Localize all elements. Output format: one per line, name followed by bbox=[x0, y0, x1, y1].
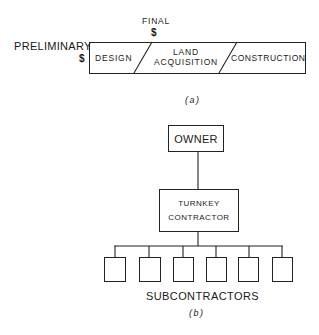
subcontractor-box-3 bbox=[173, 257, 194, 282]
turnkey-line2: CONTRACTOR bbox=[168, 213, 229, 222]
turnkey-contractor-box: TURNKEY CONTRACTOR bbox=[159, 189, 239, 232]
subcontractor-box-2 bbox=[139, 257, 161, 282]
subcontractor-box-1 bbox=[104, 257, 126, 282]
owner-box: OWNER bbox=[168, 125, 224, 152]
subcontractors-label: SUBCONTRACTORS bbox=[146, 291, 259, 302]
subcontractor-box-4 bbox=[206, 257, 227, 282]
owner-label: OWNER bbox=[174, 133, 218, 145]
turnkey-line1: TURNKEY bbox=[178, 199, 220, 208]
subcontractor-box-5 bbox=[238, 257, 259, 282]
subcontractor-box-6 bbox=[272, 257, 293, 282]
figure-b-caption: (b) bbox=[189, 309, 205, 318]
org-connectors bbox=[0, 0, 319, 335]
